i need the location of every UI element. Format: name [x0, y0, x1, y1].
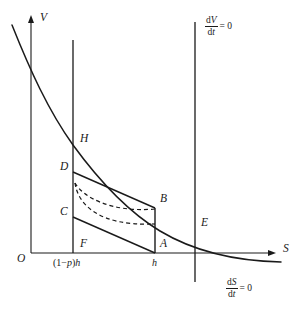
- s-axis-arrowhead: [268, 250, 276, 256]
- dv-dt-fraction: dV dt: [205, 16, 218, 37]
- tick-italic-h: h: [75, 257, 80, 268]
- nullcline-label-dv-dt: dV dt = 0: [205, 16, 232, 37]
- isocline-curve-ds-dt: [12, 25, 281, 262]
- dv-dt-equals: = 0: [220, 22, 232, 32]
- tick-label-h: h: [152, 258, 157, 268]
- point-label-D: D: [60, 161, 68, 173]
- origin-label: O: [17, 253, 25, 265]
- dv-dt-denominator: dt: [207, 27, 216, 37]
- dv-dt-numerator: dV: [205, 16, 218, 27]
- segment-D-B: [73, 172, 155, 208]
- nullcline-label-ds-dt: dS dt = 0: [226, 278, 252, 299]
- point-label-E: E: [201, 217, 208, 229]
- ds-dt-fraction: dS dt: [226, 278, 238, 299]
- dashed-upper-arc: [75, 183, 155, 210]
- v-axis-label: V: [40, 12, 47, 24]
- ds-denominator-var: t: [233, 289, 236, 299]
- point-label-A: A: [160, 238, 167, 250]
- ds-dt-equals: = 0: [240, 284, 252, 294]
- point-label-B: B: [160, 193, 167, 205]
- point-label-F: F: [80, 238, 87, 250]
- phase-plane-figure: V S O H D C F B A E (1−p)h h dV dt = 0 d…: [0, 0, 301, 314]
- point-label-C: C: [60, 206, 68, 218]
- tick-label-1-minus-p-h: (1−p)h: [53, 258, 80, 268]
- ds-numerator-var: S: [232, 277, 237, 287]
- s-axis-label: S: [283, 243, 289, 255]
- tick-prefix: (1−: [53, 257, 67, 268]
- diagram-canvas: [0, 0, 301, 314]
- ds-dt-numerator: dS: [226, 278, 238, 289]
- dv-numerator-var: V: [211, 15, 217, 25]
- ds-dt-denominator: dt: [227, 289, 236, 299]
- v-axis-group: [28, 15, 34, 253]
- v-axis-arrowhead: [28, 15, 34, 23]
- point-label-H: H: [80, 133, 88, 145]
- dv-denominator-var: t: [212, 27, 215, 37]
